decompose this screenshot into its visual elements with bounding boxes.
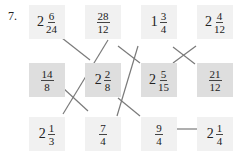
numerator: 6	[48, 10, 56, 23]
fraction-box: 2 14	[197, 117, 233, 151]
numerator: 9	[155, 122, 163, 135]
numerator: 5	[160, 68, 168, 81]
fraction-box: 2 28	[85, 63, 121, 97]
whole-part: 2	[39, 126, 46, 142]
fraction: 28	[104, 68, 112, 93]
fraction: 94	[155, 122, 163, 147]
whole-part: 2	[205, 14, 212, 30]
denominator: 12	[210, 81, 221, 93]
fraction-box: 2 13	[29, 117, 65, 151]
numerator: 4	[216, 10, 224, 23]
fraction-box: 2 515	[141, 63, 177, 97]
denominator: 12	[98, 23, 109, 35]
denominator: 12	[214, 23, 225, 35]
fraction-box: 94	[141, 117, 177, 151]
fraction: 624	[46, 10, 57, 35]
fraction-box: 1 34	[141, 5, 177, 39]
numerator: 14	[41, 68, 54, 81]
whole-part: 2	[207, 126, 214, 142]
denominator: 4	[156, 135, 162, 147]
denominator: 15	[158, 81, 169, 93]
fraction: 412	[214, 10, 225, 35]
whole-part: 2	[37, 14, 44, 30]
fraction-box: 2 412	[197, 5, 233, 39]
denominator: 4	[161, 23, 167, 35]
numerator: 3	[160, 10, 168, 23]
whole-part: 2	[149, 72, 156, 88]
fraction: 515	[158, 68, 169, 93]
fraction-box: 2 624	[29, 5, 65, 39]
fraction: 74	[99, 122, 107, 147]
numerator: 2	[104, 68, 112, 81]
fraction: 148	[41, 68, 54, 93]
whole-part: 1	[151, 14, 158, 30]
numerator: 21	[209, 68, 222, 81]
denominator: 4	[217, 135, 223, 147]
fraction: 13	[48, 122, 56, 147]
denominator: 24	[46, 23, 57, 35]
numerator: 28	[97, 10, 110, 23]
fraction-box: 2112	[197, 63, 233, 97]
fraction: 14	[216, 122, 224, 147]
problem-number: 7.	[8, 9, 17, 24]
denominator: 4	[100, 135, 106, 147]
fraction-box: 2812	[85, 5, 121, 39]
fraction-box: 74	[85, 117, 121, 151]
whole-part: 2	[95, 72, 102, 88]
denominator: 3	[49, 135, 55, 147]
denominator: 8	[44, 81, 50, 93]
numerator: 7	[99, 122, 107, 135]
fraction: 2112	[209, 68, 222, 93]
fraction-box: 148	[29, 63, 65, 97]
fraction: 34	[160, 10, 168, 35]
numerator: 1	[48, 122, 56, 135]
fraction: 2812	[97, 10, 110, 35]
matching-exercise: 7. 2 624 2812 1 34 2 412 148 2 28 2 515 …	[0, 0, 239, 156]
numerator: 1	[216, 122, 224, 135]
denominator: 8	[105, 81, 111, 93]
